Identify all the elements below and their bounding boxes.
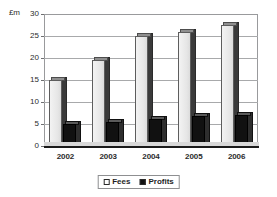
bar-front-face — [221, 25, 234, 146]
x-axis-tick-label: 2005 — [172, 152, 215, 161]
y-axis-tick-label: 10 — [23, 98, 39, 106]
legend-swatch-fees-icon — [103, 179, 109, 185]
x-axis-tick-label: 2003 — [87, 152, 130, 161]
chart-floor-front — [44, 146, 259, 148]
x-axis-tick-label: 2006 — [215, 152, 258, 161]
y-axis-tick-label: 15 — [23, 76, 39, 84]
chart-legend: FeesProfits — [97, 175, 180, 189]
legend-item-profits: Profits — [139, 177, 173, 186]
x-axis-tick-label: 2004 — [130, 152, 173, 161]
legend-label: Profits — [148, 177, 173, 186]
bar-front-face — [49, 80, 62, 146]
bar-fees-2006 — [221, 25, 234, 146]
y-axis-unit-label: £m — [9, 8, 20, 17]
bar-side-face — [248, 112, 253, 146]
legend-swatch-profits-icon — [139, 179, 145, 185]
x-axis-tick-labels: 20022003200420052006 — [44, 152, 259, 164]
bar-fees-2005 — [178, 32, 191, 146]
bar-chart: £m 051015202530 20022003200420052006 Fee… — [0, 0, 277, 197]
bar-fees-2003 — [92, 60, 105, 146]
y-axis-tick-label: 20 — [23, 54, 39, 62]
x-axis-tick-label: 2002 — [44, 152, 87, 161]
bar-fees-2004 — [135, 36, 148, 146]
y-axis-tick-label: 30 — [23, 10, 39, 18]
bar-fees-2002 — [49, 80, 62, 146]
y-axis-tick-label: 25 — [23, 32, 39, 40]
y-axis-tick-label: 5 — [23, 120, 39, 128]
bar-front-face — [178, 32, 191, 146]
y-axis-tick-label: 0 — [23, 142, 39, 150]
bar-front-face — [92, 60, 105, 146]
legend-label: Fees — [112, 177, 130, 186]
plot-area — [44, 14, 258, 146]
bar-front-face — [135, 36, 148, 146]
legend-item-fees: Fees — [103, 177, 130, 186]
